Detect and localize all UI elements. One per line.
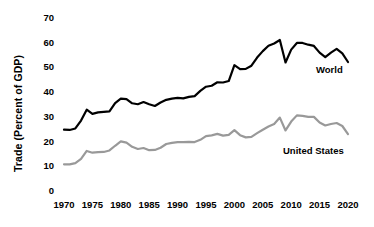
chart-container: Trade (Percent of GDP) 706050403020100 1…: [0, 0, 374, 227]
series-label-united-states: United States: [283, 145, 344, 156]
plot-area: [0, 0, 374, 227]
x-axis-tick-labels: 1970197519801985199019952000200520102015…: [0, 199, 374, 213]
x-tick-label: 2020: [331, 199, 365, 210]
series-line-united-states: [64, 115, 348, 164]
series-label-world: World: [316, 64, 343, 75]
